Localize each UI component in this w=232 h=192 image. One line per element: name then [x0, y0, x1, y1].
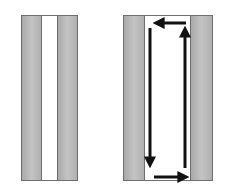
flow-arrows [0, 0, 232, 192]
